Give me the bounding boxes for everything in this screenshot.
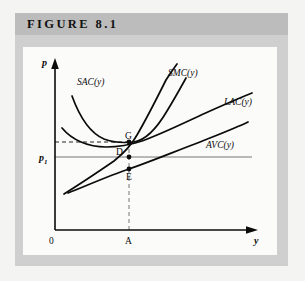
- point-e-marker: [127, 167, 132, 172]
- curve-label-avc: AVC(y): [205, 140, 234, 151]
- curve-label-sac: SAC(y): [77, 77, 104, 88]
- point-d-marker: [127, 155, 132, 160]
- curve-label-lac: LAC(y): [223, 97, 252, 108]
- tick-label-p1-subscript: 1: [44, 158, 48, 166]
- y-axis-label: p: [41, 57, 47, 68]
- point-label-g: G: [125, 131, 132, 141]
- x-axis-arrowhead: [246, 226, 258, 234]
- figure-root: FIGURE 8.1 SAC(y) SMC(y) LAC(y) AVC(y) G: [0, 0, 305, 281]
- point-label-d: D: [116, 147, 123, 157]
- y-axis-arrowhead: [51, 58, 59, 69]
- tick-label-a: A: [125, 236, 132, 246]
- x-axis-label: y: [253, 235, 259, 246]
- tick-label-p1: p1: [38, 152, 48, 166]
- plot-svg: SAC(y) SMC(y) LAC(y) AVC(y) G D E p y 0 …: [0, 0, 305, 281]
- origin-label: 0: [49, 236, 54, 246]
- point-label-e: E: [126, 172, 132, 182]
- curve-label-smc: SMC(y): [168, 68, 198, 79]
